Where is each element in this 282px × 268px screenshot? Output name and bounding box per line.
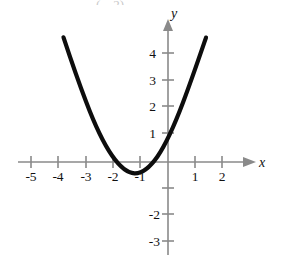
- graph-figure: ( – 2) -5 -4 -3 -2 -1 1 2 4: [0, 0, 282, 268]
- y-tick-label--3: -3: [149, 234, 160, 249]
- x-axis-arrow-icon: [243, 157, 256, 167]
- x-axis-label: x: [258, 155, 266, 170]
- x-tick-label-2: 2: [219, 169, 226, 184]
- parabola-plot: -5 -4 -3 -2 -1 1 2 4 3 2 1 -2 -3 x y: [0, 0, 282, 268]
- y-tick-label-4: 4: [149, 46, 156, 61]
- parabola-curve: [64, 37, 207, 173]
- x-tick-label--3: -3: [80, 169, 91, 184]
- y-tick-label--2: -2: [149, 207, 160, 222]
- x-tick-label--5: -5: [25, 169, 36, 184]
- x-tick-label--2: -2: [107, 169, 118, 184]
- cropped-header-text: ( – 2): [96, 0, 226, 5]
- x-tick-label--1: -1: [134, 169, 145, 184]
- x-tick-label-1: 1: [192, 169, 199, 184]
- x-tick-label--4: -4: [52, 169, 63, 184]
- y-axis-label: y: [169, 6, 178, 21]
- y-tick-label-2: 2: [149, 99, 156, 114]
- y-tick-label-3: 3: [149, 73, 156, 88]
- y-tick-label-1: 1: [149, 126, 156, 141]
